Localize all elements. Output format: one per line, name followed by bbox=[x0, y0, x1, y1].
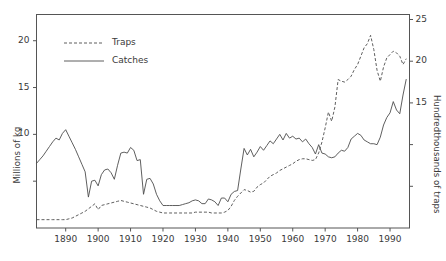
y-axis-right-title: Hundredthousands of traps bbox=[432, 95, 442, 205]
legend-label-catches: Catches bbox=[112, 55, 148, 65]
y2-tick-label-25: 25 bbox=[416, 14, 440, 24]
left-axis-ticks bbox=[33, 41, 37, 181]
x-axis-ticks bbox=[66, 228, 390, 232]
series-line-traps bbox=[37, 35, 407, 219]
right-axis-ticks bbox=[410, 20, 414, 187]
y-tick-label-15: 15 bbox=[8, 82, 30, 92]
chart-figure: Millions of kg Hundredthousands of traps… bbox=[0, 0, 446, 261]
plot-canvas bbox=[0, 0, 446, 261]
series-layer bbox=[37, 35, 407, 219]
y2-tick-label-15: 15 bbox=[416, 97, 440, 107]
axis-frame bbox=[37, 15, 410, 229]
x-tick-label-1990: 1990 bbox=[370, 234, 410, 244]
series-line-catches bbox=[37, 79, 407, 205]
legend-sample-lines bbox=[64, 43, 104, 61]
y-tick-label-20: 20 bbox=[8, 35, 30, 45]
legend-label-traps: Traps bbox=[112, 37, 136, 47]
y2-tick-label-20: 20 bbox=[416, 55, 440, 65]
y-axis-left-title: Millions of kg bbox=[12, 110, 22, 200]
plot-border bbox=[37, 15, 410, 229]
y-tick-label-10: 10 bbox=[8, 128, 30, 138]
